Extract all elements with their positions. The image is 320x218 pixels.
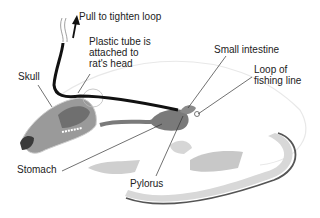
leader-skull: [38, 85, 52, 107]
skull: [22, 98, 96, 153]
label-skull: Skull: [18, 71, 40, 82]
label-stomach: Stomach: [17, 164, 56, 175]
label-loop-of-fishing-line: Loop of fishing line: [254, 64, 301, 86]
tube-end-lines: [61, 18, 68, 42]
small-intestine: [180, 105, 196, 114]
label-small-intestine: Small intestine: [214, 44, 279, 55]
fishing-line-loop: [195, 112, 200, 117]
fur-shadow-front: [88, 160, 140, 174]
leader-loop: [198, 77, 252, 114]
fur-shadow-back: [190, 151, 243, 172]
rat-diagram: Pull to tighten loop Plastic tube is att…: [0, 0, 320, 218]
label-pull-to-tighten: Pull to tighten loop: [79, 11, 161, 22]
label-pylorus: Pylorus: [130, 178, 163, 189]
label-plastic-tube: Plastic tube is attached to rat's head: [89, 36, 151, 69]
fur-shadow-chest: [170, 141, 192, 154]
